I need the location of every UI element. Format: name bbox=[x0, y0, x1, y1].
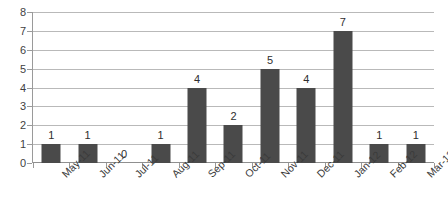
y-axis-tick-mark bbox=[27, 88, 32, 89]
bar-value-label: 4 bbox=[194, 74, 200, 85]
y-axis-tick-label: 6 bbox=[20, 44, 26, 55]
bar-slot[interactable]: 1 bbox=[398, 12, 434, 163]
y-axis-tick-label: 8 bbox=[20, 7, 26, 18]
y-axis-tick-label: 5 bbox=[20, 63, 26, 74]
bar[interactable] bbox=[42, 144, 61, 163]
x-axis-labels: May-11Jun-11Jul-11Aug-11Sep-11Oct-11Nov-… bbox=[33, 170, 434, 221]
x-axis-category-label: May-11 bbox=[60, 172, 68, 180]
y-axis-tick-mark bbox=[27, 125, 32, 126]
x-axis-category-label: Mar-12 bbox=[425, 172, 433, 180]
bar-slot[interactable]: 2 bbox=[215, 12, 251, 163]
y-axis-tick-mark bbox=[27, 163, 32, 164]
y-axis-tick-label: 4 bbox=[20, 82, 26, 93]
x-axis-category-label: Jul-11 bbox=[133, 172, 141, 180]
bar-slot[interactable]: 4 bbox=[179, 12, 215, 163]
y-axis-tick-mark bbox=[27, 31, 32, 32]
bar-value-label: 2 bbox=[230, 111, 236, 122]
bar-slot[interactable]: 4 bbox=[288, 12, 324, 163]
x-axis-category-label: Jan-12 bbox=[352, 172, 360, 180]
bar-slot[interactable]: 7 bbox=[325, 12, 361, 163]
bar-value-label: 1 bbox=[85, 130, 91, 141]
x-axis-tick-mark bbox=[33, 163, 34, 168]
bar-slot[interactable]: 5 bbox=[252, 12, 288, 163]
y-axis-tick-mark bbox=[27, 144, 32, 145]
bar-value-label: 5 bbox=[267, 55, 273, 66]
bar-value-label: 4 bbox=[303, 74, 309, 85]
x-axis-category-label: Dec-11 bbox=[315, 172, 323, 180]
x-axis-category-label: Nov-11 bbox=[279, 172, 287, 180]
y-axis-tick-label: 0 bbox=[20, 158, 26, 169]
x-axis-category-label: Feb-12 bbox=[388, 172, 396, 180]
y-axis-tick-mark bbox=[27, 69, 32, 70]
plot-area: 11014254711 bbox=[33, 12, 434, 163]
bar-value-label: 1 bbox=[413, 130, 419, 141]
x-axis-category-label: Oct-11 bbox=[243, 172, 251, 180]
bar-slot[interactable]: 1 bbox=[69, 12, 105, 163]
bars-layer: 11014254711 bbox=[33, 12, 434, 163]
y-axis-tick-label: 2 bbox=[20, 120, 26, 131]
bar-value-label: 1 bbox=[158, 130, 164, 141]
bar-value-label: 1 bbox=[48, 130, 54, 141]
bar[interactable] bbox=[333, 31, 352, 163]
y-axis-tick-mark bbox=[27, 12, 32, 13]
y-axis-tick-label: 1 bbox=[20, 139, 26, 150]
x-axis-category-label: Aug-11 bbox=[170, 172, 178, 180]
bar-slot[interactable]: 1 bbox=[142, 12, 178, 163]
x-axis-category-label: Jun-11 bbox=[97, 172, 105, 180]
bar-value-label: 7 bbox=[340, 17, 346, 28]
y-axis: 012345678 bbox=[0, 0, 30, 170]
y-axis-tick-mark bbox=[27, 106, 32, 107]
y-axis-tick-label: 3 bbox=[20, 101, 26, 112]
y-axis-tick-mark bbox=[27, 50, 32, 51]
bar-value-label: 1 bbox=[376, 130, 382, 141]
bar-chart: 012345678 11014254711 May-11Jun-11Jul-11… bbox=[0, 0, 448, 221]
bar-slot[interactable]: 0 bbox=[106, 12, 142, 163]
bar-slot[interactable]: 1 bbox=[361, 12, 397, 163]
y-axis-tick-label: 7 bbox=[20, 25, 26, 36]
x-axis-category-label: Sep-11 bbox=[206, 172, 214, 180]
bar-slot[interactable]: 1 bbox=[33, 12, 69, 163]
